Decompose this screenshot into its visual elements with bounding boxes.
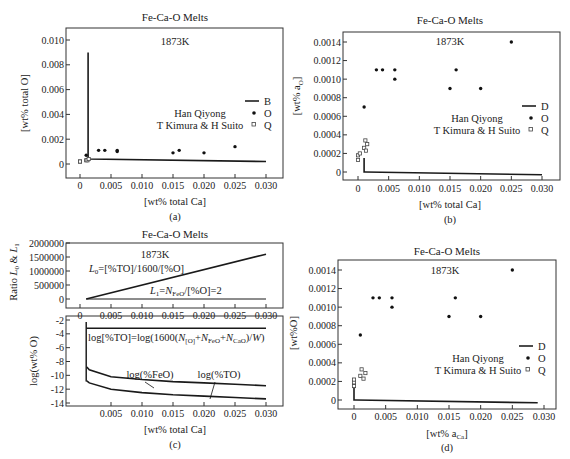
x-tick-label: 0.015: [438, 411, 461, 422]
y-tick-label: 0.0010: [314, 74, 342, 85]
data-point-filled: [448, 87, 451, 90]
y-tick-label: 0.0008: [314, 92, 342, 103]
data-point-filled: [371, 296, 374, 299]
y-tick-label: 0.0012: [309, 283, 337, 294]
label-log-to: log(%TO): [198, 369, 241, 381]
x-tick-label: 0: [78, 180, 83, 191]
y-axis-label-ratio: Ratio L0 & L1: [8, 243, 21, 301]
x-tick-label: 0.010: [408, 183, 431, 194]
log-to-line: [87, 381, 266, 399]
plot-frame: [66, 316, 283, 406]
x-tick-label: 0: [356, 183, 361, 194]
plot-frame: [338, 260, 556, 409]
y-tick-label: 0.0004: [309, 357, 337, 368]
legend-open-swatch: [252, 123, 256, 127]
y-axis-label: [wt% aO]: [291, 77, 305, 116]
legend-source-2: T Kimura & H Suito: [157, 120, 244, 131]
y-axis-label: [wt%O]: [288, 316, 299, 350]
y-tick-label: 2000000: [29, 238, 64, 249]
x-tick-label: 0.020: [469, 411, 492, 422]
x-tick-label: 0.005: [100, 180, 123, 191]
temperature-label: 1873K: [436, 36, 465, 47]
data-point-open: [87, 157, 90, 160]
legend-label-filled: O: [264, 108, 272, 119]
legend-source-1: Han Qiyong: [452, 353, 504, 364]
chart-title: Fe-Ca-O Melts: [414, 245, 480, 257]
data-point-filled: [447, 315, 450, 318]
data-point-open: [360, 368, 363, 371]
x-tick-label: 0.010: [131, 180, 154, 191]
legend-filled-swatch: [526, 356, 530, 360]
data-point-filled: [97, 149, 100, 152]
calculated-line-b: [88, 52, 266, 161]
y-tick-label: -2: [56, 315, 64, 326]
y-tick-label: 0.0014: [314, 37, 342, 48]
y-tick-label: -14: [51, 398, 64, 409]
data-point-filled: [390, 296, 393, 299]
legend-open-swatch: [526, 368, 530, 372]
data-point-open: [356, 158, 359, 161]
label-log-feo: log(%FeO): [126, 369, 174, 381]
panel-caption: (b): [444, 214, 457, 226]
x-tick-label: 0: [352, 411, 357, 422]
legend-source-2: T Kimura & H Suito: [434, 125, 521, 136]
data-point-filled: [510, 40, 513, 43]
pointer-line-feo: [145, 382, 154, 388]
data-point-open: [362, 377, 365, 380]
y-tick-label: 1500000: [29, 252, 64, 263]
y-tick-label: 0.0002: [314, 148, 342, 159]
legend-filled-swatch: [252, 111, 256, 115]
equation-l1: L1=NFeO/[%O]=2: [149, 285, 222, 298]
legend-label-open: Q: [538, 365, 546, 376]
plot-frame: [66, 243, 283, 308]
data-point-filled: [116, 150, 119, 153]
data-point-filled: [511, 268, 514, 271]
x-tick-label: 0.030: [255, 408, 278, 419]
y-tick-label: 0: [331, 395, 336, 406]
data-point-filled: [85, 154, 88, 157]
x-tick-label: 0.020: [193, 180, 216, 191]
y-tick-label: 0: [336, 167, 341, 178]
x-tick-label: 0.025: [224, 180, 247, 191]
x-tick-label: 0.030: [255, 310, 278, 321]
legend-filled-swatch: [529, 116, 533, 120]
subplot-ratio: 1873K200000015000001000000500000000.0050…: [8, 238, 283, 321]
x-tick-label: 0.030: [531, 183, 554, 194]
y-tick-label: 0.0010: [309, 302, 337, 313]
x-tick-label: 0.010: [406, 411, 429, 422]
y-tick-label: 0.0008: [309, 320, 337, 331]
y-tick-label: 0.002: [42, 134, 65, 145]
data-point-open: [352, 384, 355, 387]
x-tick-label: 0.030: [255, 180, 278, 191]
legend-label-open: Q: [264, 120, 272, 131]
x-axis-label: [wt% aCa]: [426, 428, 467, 441]
temperature-label: 1873K: [431, 265, 460, 276]
data-point-filled: [454, 68, 457, 71]
data-point-filled: [359, 333, 362, 336]
chart-panel-d: Fe-Ca-O Melts1873K0.00140.00120.00100.00…: [288, 245, 556, 454]
legend-label-line: B: [264, 96, 271, 107]
legend-label-line: D: [538, 341, 546, 352]
x-tick-label: 0.020: [193, 408, 216, 419]
y-tick-label: 0.004: [42, 109, 65, 120]
legend-label-open: Q: [541, 125, 549, 136]
data-point-filled: [479, 87, 482, 90]
x-tick-label: 0.015: [439, 183, 462, 194]
data-point-filled: [378, 296, 381, 299]
chart-title: Fe-Ca-O Melts: [142, 11, 208, 23]
y-tick-label: -4: [56, 328, 64, 339]
data-point-open: [364, 149, 367, 152]
y-tick-label: 0.0004: [314, 129, 342, 140]
x-tick-label: 0.030: [533, 411, 556, 422]
data-point-filled: [454, 296, 457, 299]
data-point-filled: [375, 68, 378, 71]
data-point-filled: [233, 145, 236, 148]
x-tick-label: 0.015: [162, 408, 185, 419]
legend-source-1: Han Qiyong: [174, 108, 226, 119]
y-tick-label: 1000000: [29, 266, 64, 277]
figure-canvas: Fe-Ca-O Melts1873K0.0100.0080.0060.0040.…: [0, 0, 570, 459]
y-tick-label: 0: [59, 159, 64, 170]
data-point-open: [366, 143, 369, 146]
chart-title: Fe-Ca-O Melts: [417, 14, 483, 26]
y-axis-label-log: log(wt% O): [28, 336, 40, 386]
